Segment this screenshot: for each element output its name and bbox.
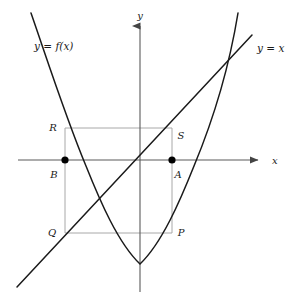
- point-label-S: S: [178, 130, 185, 141]
- point-label-B: B: [49, 169, 57, 180]
- axis-labels: y x: [136, 10, 278, 166]
- curve-label-parabola: y = f(x): [33, 40, 73, 52]
- axes: [18, 26, 258, 292]
- figure-canvas: R S B A Q P y = f(x) y = x y x: [0, 0, 295, 301]
- math-figure: R S B A Q P y = f(x) y = x y x: [0, 0, 295, 301]
- y-axis-label: y: [136, 10, 143, 21]
- point-label-A: A: [173, 169, 181, 180]
- x-axis-label: x: [272, 155, 278, 166]
- point-label-Q: Q: [48, 227, 56, 238]
- point-dot-B: [61, 156, 68, 163]
- point-label-R: R: [48, 122, 57, 133]
- curve-label-identity: y = x: [256, 42, 284, 54]
- point-label-P: P: [177, 227, 185, 238]
- point-dot-A: [168, 156, 175, 163]
- curve-labels: y = f(x) y = x: [33, 40, 284, 54]
- curves: [17, 13, 252, 287]
